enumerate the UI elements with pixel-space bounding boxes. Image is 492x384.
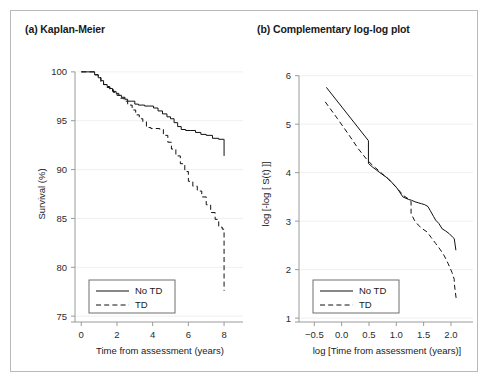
y-tick-label: 2: [286, 264, 291, 275]
legend-label-td: TD: [359, 299, 372, 310]
y-tick-label: 85: [56, 213, 67, 224]
panel-cloglog: (b) Complementary log-log plot 123456−0.…: [247, 11, 479, 373]
y-tick-label: 4: [286, 167, 291, 178]
x-axis-title: log [Time from assessment (years)]: [313, 345, 462, 356]
cloglog-chart: 123456−0.50.00.51.01.52.0log [Time from …: [247, 11, 479, 373]
x-tick-label: 0: [79, 329, 84, 340]
y-tick-label: 90: [56, 164, 67, 175]
y-tick-label: 100: [51, 66, 67, 77]
y-tick-label: 5: [286, 119, 291, 130]
legend-label-no-td: No TD: [359, 285, 386, 296]
x-tick-label: −0.5: [305, 329, 324, 340]
x-axis-title: Time from assessment (years): [96, 345, 224, 356]
legend-label-td: TD: [135, 299, 148, 310]
y-axis-title: Survival (%): [36, 168, 47, 219]
y-tick-label: 95: [56, 115, 67, 126]
x-tick-label: 4: [150, 329, 155, 340]
y-tick-label: 3: [286, 216, 291, 227]
series-line-td: [81, 72, 224, 291]
x-tick-label: 0.0: [335, 329, 348, 340]
x-tick-label: 1.5: [417, 329, 430, 340]
y-tick-label: 75: [56, 311, 67, 322]
y-axis-title: log [-log [ S(t) ]]: [260, 162, 271, 227]
x-tick-label: 6: [186, 329, 191, 340]
legend-label-no-td: No TD: [135, 285, 162, 296]
series-line-no-td: [81, 72, 224, 156]
x-tick-label: 0.5: [362, 329, 375, 340]
series-line-no-td: [326, 87, 456, 250]
x-tick-label: 1.0: [390, 329, 403, 340]
y-tick-label: 6: [286, 70, 291, 81]
kaplan-meier-chart: 758085909510002468Time from assessment (…: [11, 11, 247, 373]
panel-kaplan-meier: (a) Kaplan-Meier 758085909510002468Time …: [11, 11, 247, 373]
y-tick-label: 80: [56, 262, 67, 273]
x-tick-label: 2.0: [444, 329, 457, 340]
series-line-td: [325, 102, 456, 301]
figure-frame: (a) Kaplan-Meier 758085909510002468Time …: [10, 10, 478, 372]
y-tick-label: 1: [286, 313, 291, 324]
x-tick-label: 8: [221, 329, 226, 340]
x-tick-label: 2: [114, 329, 119, 340]
